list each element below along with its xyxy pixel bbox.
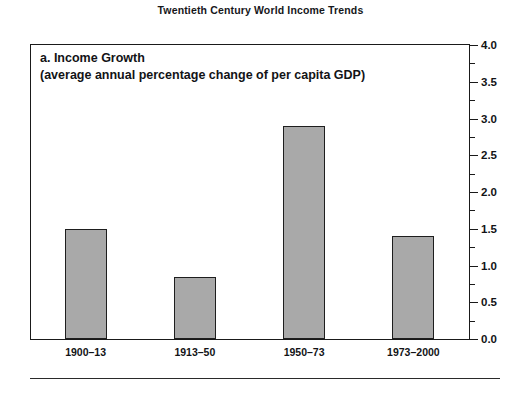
y-tick-label: 3.0 (481, 113, 497, 125)
bottom-divider (30, 378, 500, 379)
y-tick-label: 3.5 (481, 76, 497, 88)
x-tick-label: 1973–2000 (363, 346, 463, 358)
y-tick-label: 0.0 (481, 333, 497, 345)
y-tick-minor (470, 137, 475, 138)
y-tick-major (470, 302, 478, 303)
y-tick-major (470, 229, 478, 230)
y-tick-major (470, 45, 478, 46)
y-tick-minor (470, 284, 475, 285)
y-tick-major (470, 119, 478, 120)
y-tick-minor (470, 247, 475, 248)
y-tick-label: 2.5 (481, 149, 497, 161)
y-tick-major (470, 266, 478, 267)
y-tick-label: 2.0 (481, 186, 497, 198)
y-tick-label: 1.0 (481, 260, 497, 272)
y-tick-minor (470, 63, 475, 64)
y-tick-minor (470, 321, 475, 322)
y-tick-label: 1.5 (481, 223, 497, 235)
x-tick-label: 1913–50 (145, 346, 245, 358)
bar-plot-area (31, 45, 468, 339)
bar-1913-50 (174, 277, 216, 339)
bar-1900-13 (65, 229, 107, 339)
y-axis: 0.00.51.01.52.02.53.03.54.0 (470, 44, 521, 340)
y-tick-major (470, 192, 478, 193)
x-axis: 1900–131913–501950–731973–2000 (31, 346, 468, 366)
x-tick-label: 1950–73 (254, 346, 354, 358)
y-tick-minor (470, 210, 475, 211)
y-tick-major (470, 339, 478, 340)
bar-1950-73 (283, 126, 325, 339)
y-tick-minor (470, 100, 475, 101)
y-tick-major (470, 82, 478, 83)
figure-title: Twentieth Century World Income Trends (0, 4, 521, 16)
bar-1973-2000 (392, 236, 434, 339)
y-tick-minor (470, 174, 475, 175)
y-tick-label: 4.0 (481, 39, 497, 51)
y-tick-major (470, 155, 478, 156)
x-tick-label: 1900–13 (36, 346, 136, 358)
y-tick-label: 0.5 (481, 296, 497, 308)
